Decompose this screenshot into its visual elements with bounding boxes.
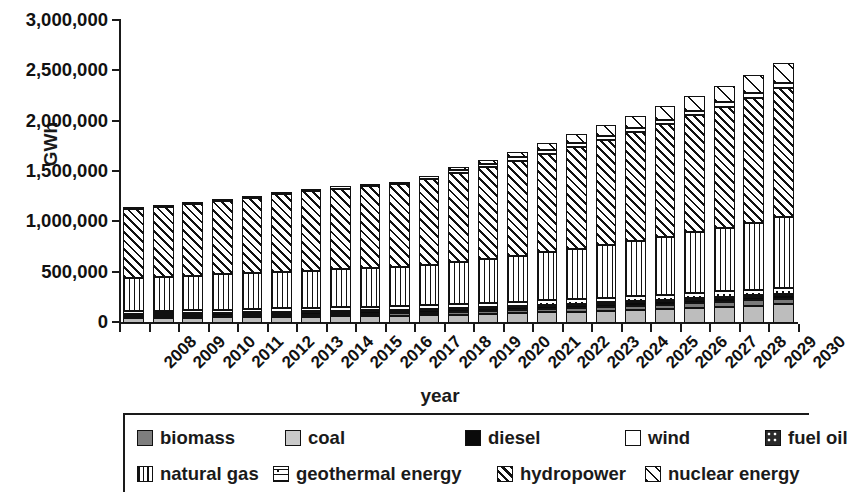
bar-segment-natural-gas	[153, 277, 174, 310]
legend-item-nuclear-energy[interactable]: nuclear energy	[645, 465, 800, 484]
bar-2025[interactable]	[625, 21, 646, 323]
bar-segment-geothermal-energy	[242, 309, 263, 312]
x-axis-tick-mark	[532, 324, 534, 332]
bar-segment-nuclear-energy	[537, 143, 558, 150]
y-axis-tick-label: 1,000,000	[0, 210, 108, 232]
bar-2017[interactable]	[389, 21, 410, 323]
bar-segment-diesel	[507, 307, 528, 310]
bar-segment-diesel	[212, 313, 233, 315]
fuel-oil-swatch-icon	[765, 430, 781, 446]
bar-segment-diesel	[330, 312, 351, 315]
legend-item-diesel[interactable]: diesel	[465, 429, 540, 448]
wind-swatch-icon	[625, 430, 641, 446]
x-axis-tick-mark	[621, 324, 623, 332]
bar-segment-coal	[301, 317, 322, 323]
bar-segment-geothermal-energy	[301, 308, 322, 311]
bar-segment-nuclear-energy	[655, 106, 676, 120]
bar-2008[interactable]	[123, 21, 144, 323]
bar-segment-natural-gas	[743, 223, 764, 290]
y-axis-tick-label: 3,000,000	[0, 9, 108, 31]
x-axis-tick-label-2030: 2030	[809, 332, 850, 373]
legend-item-fuel-oil[interactable]: fuel oil	[765, 429, 848, 448]
bar-2011[interactable]	[212, 21, 233, 323]
bar-2021[interactable]	[507, 21, 528, 323]
bar-segment-coal	[655, 309, 676, 323]
bar-segment-diesel	[448, 309, 469, 312]
bar-segment-hydropower	[596, 140, 617, 245]
bar-segment-natural-gas	[655, 237, 676, 295]
bar-segment-nuclear-energy	[566, 134, 587, 143]
bar-segment-coal	[360, 316, 381, 323]
bar-segment-diesel	[743, 297, 764, 301]
legend-item-hydropower[interactable]: hydropower	[497, 465, 626, 484]
bar-segment-geothermal-energy	[182, 310, 203, 313]
bar-segment-wind	[123, 207, 144, 209]
bar-segment-coal	[537, 312, 558, 323]
bar-segment-coal	[271, 317, 292, 323]
bar-2018[interactable]	[419, 21, 440, 323]
bar-2010[interactable]	[182, 21, 203, 323]
bar-2026[interactable]	[655, 21, 676, 323]
legend-item-biomass[interactable]: biomass	[137, 429, 235, 448]
legend-item-coal[interactable]: coal	[285, 429, 345, 448]
bar-segment-biomass	[596, 307, 617, 311]
bar-segment-coal	[773, 304, 794, 323]
bar-2016[interactable]	[360, 21, 381, 323]
diesel-swatch-icon	[465, 430, 481, 446]
bar-segment-hydropower	[182, 204, 203, 275]
x-axis-tick-mark	[680, 324, 682, 332]
bar-2019[interactable]	[448, 21, 469, 323]
bar-segment-geothermal-energy	[389, 306, 410, 310]
bar-segment-natural-gas	[360, 268, 381, 306]
bar-segment-wind	[419, 176, 440, 179]
bar-2022[interactable]	[537, 21, 558, 323]
bar-segment-coal	[478, 314, 499, 323]
bar-2023[interactable]	[566, 21, 587, 323]
bar-segment-hydropower	[655, 124, 676, 237]
bar-2012[interactable]	[242, 21, 263, 323]
x-axis-tick-mark	[267, 324, 269, 332]
bar-segment-wind	[389, 182, 410, 185]
bar-2027[interactable]	[684, 21, 705, 323]
bar-segment-wind	[684, 111, 705, 115]
bar-segment-biomass	[566, 308, 587, 312]
bar-2014[interactable]	[301, 21, 322, 323]
bar-segment-natural-gas	[389, 267, 410, 306]
bar-2015[interactable]	[330, 21, 351, 323]
bar-segment-hydropower	[153, 207, 174, 277]
bar-2029[interactable]	[743, 21, 764, 323]
bar-segment-diesel	[419, 310, 440, 313]
bar-segment-biomass	[625, 306, 646, 310]
bar-segment-nuclear-energy	[714, 86, 735, 103]
bar-2013[interactable]	[271, 21, 292, 323]
x-axis-tick-mark	[119, 324, 121, 332]
bar-2020[interactable]	[478, 21, 499, 323]
bar-segment-diesel	[566, 305, 587, 308]
bar-segment-geothermal-energy	[330, 307, 351, 311]
y-axis-tick-mark	[112, 220, 120, 222]
bar-segment-geothermal-energy	[655, 295, 676, 300]
legend-item-wind[interactable]: wind	[625, 429, 690, 448]
bar-segment-biomass	[212, 315, 233, 317]
bar-segment-coal	[566, 312, 587, 323]
bar-segment-hydropower	[271, 194, 292, 272]
x-axis-tick-mark	[739, 324, 741, 332]
bar-segment-coal	[212, 317, 233, 323]
bar-segment-diesel	[182, 314, 203, 316]
legend-label: hydropower	[520, 465, 626, 484]
y-axis-tick-label: 2,500,000	[0, 59, 108, 81]
bar-2028[interactable]	[714, 21, 735, 323]
bar-2009[interactable]	[153, 21, 174, 323]
x-axis-tick-mark	[709, 324, 711, 332]
bar-segment-hydropower	[625, 132, 646, 241]
legend-item-natural-gas[interactable]: natural gas	[137, 465, 259, 484]
bar-segment-geothermal-energy	[271, 308, 292, 311]
legend-item-geothermal-energy[interactable]: geothermal energy	[273, 465, 462, 484]
x-axis-tick-mark	[444, 324, 446, 332]
x-axis-tick-mark	[385, 324, 387, 332]
bar-2024[interactable]	[596, 21, 617, 323]
bar-segment-diesel	[123, 315, 144, 317]
bar-segment-coal	[448, 315, 469, 323]
bar-2030[interactable]	[773, 21, 794, 323]
bar-segment-wind	[478, 164, 499, 167]
